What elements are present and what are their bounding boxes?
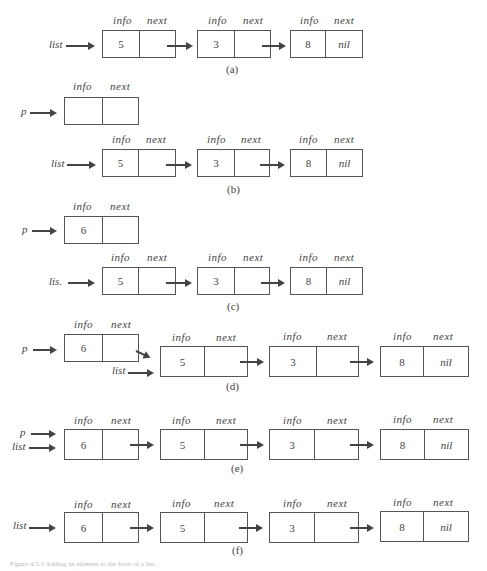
- panel-caption: (c): [227, 300, 239, 312]
- arrow-icon: [30, 112, 55, 114]
- field-label-info: info: [74, 414, 93, 426]
- field-label-info: info: [207, 133, 226, 145]
- list-node: 8 nil: [290, 267, 363, 295]
- node-next: [103, 98, 138, 124]
- field-label-info: info: [393, 496, 412, 508]
- new-node: 6: [64, 216, 139, 244]
- list-node: 5: [102, 30, 176, 58]
- field-label-next: next: [433, 330, 453, 342]
- pointer-list-label: list: [49, 38, 62, 50]
- field-label-info: info: [74, 498, 93, 510]
- field-label-next: next: [327, 414, 347, 426]
- field-label-next: next: [334, 251, 354, 263]
- pointer-p-label: p: [20, 426, 26, 438]
- panel-caption: (e): [231, 462, 243, 474]
- pointer-list-label: list: [12, 440, 25, 452]
- panel-caption: (f): [232, 544, 243, 556]
- field-label-next: next: [147, 14, 167, 26]
- field-label-next: next: [216, 331, 236, 343]
- field-label-next: next: [327, 330, 347, 342]
- node-info: 8: [291, 31, 326, 57]
- arrow-icon: [350, 527, 372, 529]
- node-next: [235, 268, 269, 294]
- node-info: 5: [161, 513, 205, 542]
- arrow-icon: [32, 230, 55, 232]
- field-label-next: next: [241, 133, 261, 145]
- node-next: [103, 335, 138, 361]
- arrow-icon: [130, 444, 152, 446]
- new-node: [64, 97, 139, 125]
- field-label-info: info: [73, 200, 92, 212]
- node-info: 3: [198, 150, 235, 176]
- node-info: 5: [161, 430, 205, 459]
- node-next: [139, 150, 175, 176]
- field-label-info: info: [111, 251, 130, 263]
- list-node: 3: [269, 429, 359, 460]
- list-node: 3: [197, 267, 270, 295]
- field-label-next: next: [334, 133, 354, 145]
- field-label-info: info: [283, 497, 302, 509]
- list-node: 6: [64, 512, 139, 543]
- node-next: nil: [326, 31, 362, 57]
- field-label-info: info: [208, 14, 227, 26]
- arrow-icon: [31, 433, 54, 435]
- panel-caption: (b): [227, 183, 240, 195]
- field-label-info: info: [283, 414, 302, 426]
- pointer-list-label: list: [13, 519, 26, 531]
- pointer-p-label: p: [22, 223, 28, 235]
- node-info: 6: [65, 430, 103, 459]
- arrow-icon: [239, 527, 261, 529]
- list-node: 3: [197, 30, 271, 58]
- field-label-next: next: [243, 251, 263, 263]
- field-label-info: info: [172, 331, 191, 343]
- node-info: 3: [270, 347, 317, 376]
- list-node: 8 nil: [380, 429, 469, 460]
- field-label-info: info: [393, 330, 412, 342]
- arrow-icon: [33, 349, 55, 351]
- list-node: 5: [160, 346, 248, 377]
- field-label-next: next: [147, 251, 167, 263]
- list-node: 5: [160, 512, 248, 543]
- list-node: 5: [102, 149, 176, 177]
- arrow-icon: [66, 45, 93, 47]
- node-info: 6: [65, 335, 103, 361]
- arrow-icon: [29, 447, 54, 449]
- node-next: nil: [425, 430, 468, 459]
- field-label-info: info: [113, 14, 132, 26]
- list-node: 8 nil: [290, 30, 363, 58]
- node-info: 8: [381, 512, 424, 541]
- panel-caption: (a): [226, 63, 238, 75]
- node-next: nil: [424, 512, 468, 541]
- arrow-icon: [67, 164, 94, 166]
- node-next: [103, 217, 138, 243]
- pointer-list-label: lis.: [49, 275, 62, 287]
- field-label-next: next: [433, 496, 453, 508]
- pointer-p-label: p: [21, 105, 27, 117]
- arrow-icon: [261, 282, 283, 284]
- field-label-next: next: [216, 414, 236, 426]
- list-node: 8 nil: [290, 149, 363, 177]
- node-next: [139, 268, 175, 294]
- pointer-list-label: list: [112, 364, 125, 376]
- list-node: 3: [269, 512, 359, 543]
- figure-caption: Figure 4.5.3 Adding an element to the fr…: [10, 560, 156, 568]
- node-info: 5: [103, 31, 140, 57]
- arrow-icon: [260, 164, 283, 166]
- panel-caption: (d): [226, 380, 239, 392]
- arrow-icon: [68, 282, 93, 284]
- node-info: 5: [103, 268, 139, 294]
- node-info: 8: [291, 268, 327, 294]
- new-node: 6: [64, 334, 139, 362]
- node-next: [235, 150, 269, 176]
- field-label-next: next: [111, 414, 131, 426]
- arrow-icon: [130, 527, 152, 529]
- list-node: 5: [160, 429, 248, 460]
- field-label-info: info: [208, 251, 227, 263]
- field-label-info: info: [300, 14, 319, 26]
- field-label-next: next: [334, 14, 354, 26]
- field-label-info: info: [299, 133, 318, 145]
- field-label-info: info: [393, 413, 412, 425]
- node-next: nil: [327, 150, 362, 176]
- arrow-icon: [240, 361, 262, 363]
- node-next: nil: [424, 347, 468, 376]
